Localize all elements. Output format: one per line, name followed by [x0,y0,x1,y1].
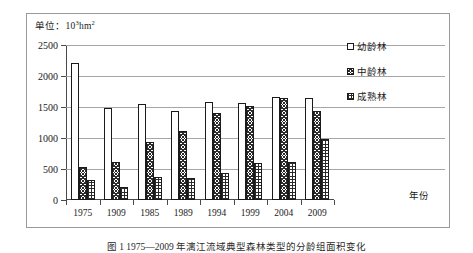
bar-group: 2009 [301,45,335,200]
legend-label: 中龄林 [357,64,387,78]
x-axis-tick [133,200,134,205]
legend-item[interactable]: 成熟林 [347,89,387,103]
y-axis-label: 2000 [38,71,58,82]
x-axis-tick [234,200,235,205]
bar[interactable] [120,187,128,200]
x-axis-tick [66,200,67,205]
x-axis-label: 2004 [274,208,293,218]
bar[interactable] [171,111,179,200]
bar-group: 1985 [133,45,167,200]
bar-group: 1975 [66,45,100,200]
bar-group: 1989 [167,45,201,200]
x-axis-title: 年份 [409,188,429,202]
x-axis-tick [334,200,335,205]
bar[interactable] [288,162,296,200]
bar[interactable] [313,111,321,200]
bar[interactable] [221,173,229,200]
unit-suffix-exponent: 2 [92,19,95,26]
bar[interactable] [79,167,87,200]
bar-group: 1999 [234,45,268,200]
x-axis-label: 1994 [207,208,226,218]
legend-label: 幼龄林 [357,39,387,53]
legend-item[interactable]: 幼龄林 [347,39,387,53]
y-axis-label: 0 [53,195,58,206]
legend-swatch-cross-hatch [347,68,354,75]
bar[interactable] [205,102,213,200]
bar-group: 1909 [100,45,134,200]
legend-swatch-stipple [347,93,354,100]
bar[interactable] [104,108,112,200]
bar[interactable] [71,63,79,200]
y-axis-label: 1500 [38,102,58,113]
y-axis-label: 2500 [38,40,58,51]
unit-label: 单位：103hm2 [35,18,95,32]
x-axis-label: 1975 [73,208,92,218]
x-axis-label: 1999 [241,208,260,218]
bar[interactable] [254,163,262,200]
bar[interactable] [238,103,246,200]
x-axis-label: 1909 [107,208,126,218]
bar[interactable] [280,98,288,200]
legend-label: 成熟林 [357,89,387,103]
legend-swatch-empty [347,43,354,50]
bar[interactable] [187,178,195,200]
y-axis-label: 500 [43,164,58,175]
bar[interactable] [246,106,254,200]
unit-prefix: 单位：10 [35,21,76,31]
bar[interactable] [305,98,313,200]
bar[interactable] [154,177,162,200]
legend-item[interactable]: 中龄林 [347,64,387,78]
x-axis-tick [301,200,302,205]
bar-groups: 19751909198519891994199920042009 [66,45,334,200]
x-axis-tick [100,200,101,205]
bar[interactable] [146,142,154,200]
bar[interactable] [179,131,187,200]
bar-group: 1994 [200,45,234,200]
unit-suffix: hm [79,21,92,31]
x-axis-label: 1985 [140,208,159,218]
x-axis-label: 2009 [308,208,327,218]
bar[interactable] [213,113,221,200]
bar[interactable] [321,139,329,200]
bar[interactable] [138,104,146,200]
x-axis-label: 1989 [174,208,193,218]
bar[interactable] [87,180,95,200]
x-axis-tick [200,200,201,205]
legend: 幼龄林中龄林成熟林 [347,39,387,103]
figure-caption: 图 1 1975—2009 年漓江流域典型森林类型的分龄组面积变化 [0,239,473,253]
plot-area: 05001000150020002500 1975190919851989199… [66,45,334,200]
figure-frame: 单位：103hm2 05001000150020002500 197519091… [26,13,450,228]
bar[interactable] [112,162,120,200]
bar[interactable] [272,97,280,200]
bar-group: 2004 [267,45,301,200]
x-axis-tick [267,200,268,205]
x-axis-tick [167,200,168,205]
y-axis-label: 1000 [38,133,58,144]
